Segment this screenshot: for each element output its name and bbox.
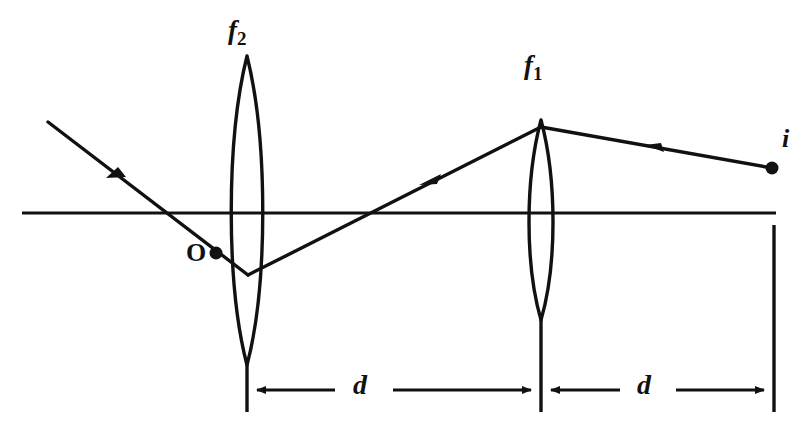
dimension-label-d-right: d bbox=[637, 371, 651, 399]
lens-f1-shape bbox=[529, 120, 553, 320]
image-point-label: i bbox=[782, 126, 789, 152]
lens-label-f2: f2 bbox=[228, 17, 247, 48]
lens-f2-shape bbox=[231, 56, 263, 365]
lens-label-f2-subscript: 2 bbox=[237, 28, 247, 49]
lens-label-f1-base: f bbox=[524, 50, 533, 80]
lens-label-f1-subscript: 1 bbox=[533, 63, 543, 84]
dimension-label-d-left: d bbox=[353, 371, 367, 399]
lens-label-f1: f1 bbox=[524, 52, 543, 83]
ray-diagram-figure: f2 f1 O i d d bbox=[0, 0, 804, 427]
object-point-label: O bbox=[186, 240, 206, 266]
lens-label-f2-base: f bbox=[228, 15, 237, 45]
image-point-marker bbox=[766, 162, 779, 175]
middle-ray-between-lenses bbox=[248, 127, 541, 275]
ray-arrowhead-middle-segment bbox=[419, 174, 441, 185]
ray-diagram-canvas bbox=[0, 0, 804, 427]
object-point-marker bbox=[210, 247, 223, 260]
